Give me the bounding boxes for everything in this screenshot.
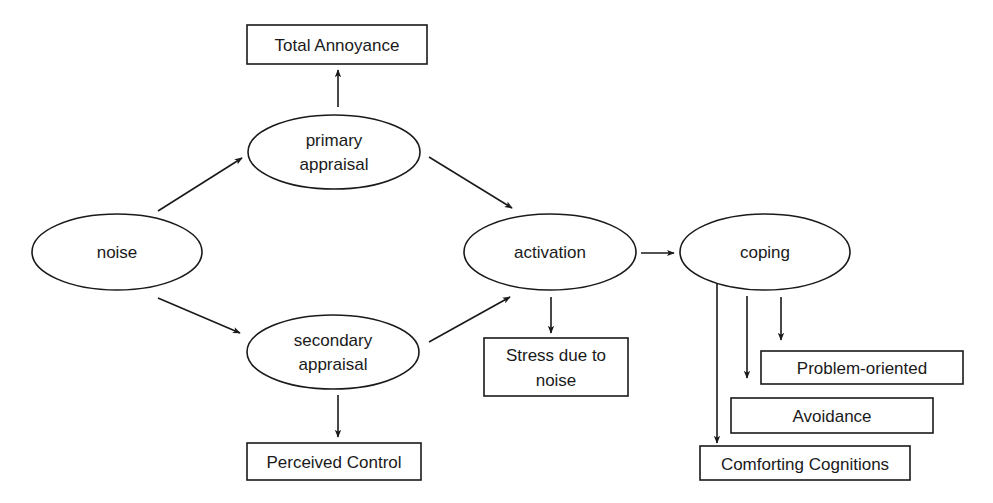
edge-noise-secondary (158, 298, 240, 333)
node-comforting-cognitions: Comforting Cognitions (700, 446, 910, 480)
node-problem-oriented: Problem-oriented (761, 351, 963, 384)
node-secondary-label-2: appraisal (299, 355, 368, 374)
node-avoidance: Avoidance (731, 398, 933, 433)
node-stress-label-2: noise (536, 371, 577, 390)
stress-model-diagram: noise primary appraisal secondary apprai… (0, 0, 993, 503)
edge-primary-activation (429, 157, 512, 208)
node-stress-label-1: Stress due to (506, 346, 606, 365)
node-noise: noise (32, 214, 202, 290)
node-activation: activation (464, 214, 636, 290)
edge-noise-primary (158, 158, 242, 211)
node-total-annoyance: Total Annoyance (247, 25, 427, 64)
node-problem-oriented-label: Problem-oriented (797, 359, 927, 378)
node-comforting-label: Comforting Cognitions (721, 455, 889, 474)
node-perceived-control-label: Perceived Control (266, 453, 401, 472)
node-primary-appraisal: primary appraisal (248, 115, 420, 189)
node-primary-label-2: appraisal (300, 155, 369, 174)
node-noise-label: noise (97, 243, 138, 262)
node-perceived-control: Perceived Control (247, 443, 421, 480)
node-secondary-appraisal: secondary appraisal (247, 315, 419, 389)
node-coping-label: coping (740, 243, 790, 262)
node-avoidance-label: Avoidance (792, 407, 871, 426)
edge-secondary-activation (429, 297, 510, 342)
node-secondary-label-1: secondary (294, 331, 373, 350)
node-activation-label: activation (514, 243, 586, 262)
node-stress: Stress due to noise (484, 338, 628, 396)
node-primary-label-1: primary (306, 131, 363, 150)
node-coping: coping (680, 214, 850, 290)
node-total-annoyance-label: Total Annoyance (275, 36, 400, 55)
